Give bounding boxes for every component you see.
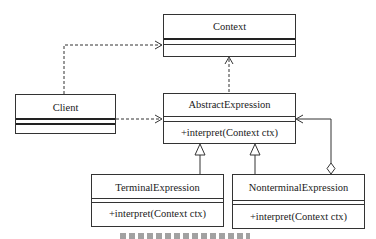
operation-interpret: +interpret(Context ctx) (92, 208, 223, 219)
client-context-dependency (64, 41, 162, 94)
class-name: Client (16, 102, 115, 113)
figure-caption-truncated (120, 233, 250, 239)
operation-divider (164, 121, 295, 122)
class-name: TerminalExpression (92, 182, 223, 193)
operation-interpret: +interpret(Context ctx) (164, 127, 295, 138)
aggregation-arrow (296, 115, 335, 174)
class-nonterminal-expression[interactable]: NonterminalExpression +interpret(Context… (232, 174, 365, 229)
operation-divider (233, 204, 364, 205)
client-abstractexpression-dependency (116, 115, 162, 123)
class-name: Context (164, 21, 295, 32)
class-name: NonterminalExpression (233, 182, 364, 193)
operation-divider (92, 202, 223, 203)
attribute-divider (92, 198, 223, 199)
class-abstract-expression[interactable]: AbstractExpression +interpret(Context ct… (163, 93, 296, 144)
class-context[interactable]: Context (163, 14, 296, 57)
attribute-divider (233, 200, 364, 201)
attribute-divider (164, 38, 295, 40)
nonterminal-generalization-arrow (250, 144, 260, 174)
class-terminal-expression[interactable]: TerminalExpression +interpret(Context ct… (91, 174, 224, 227)
abstractexpression-context-dependency (225, 57, 233, 92)
terminal-generalization-arrow (195, 144, 205, 174)
attribute-divider (16, 118, 115, 120)
class-client[interactable]: Client (15, 94, 116, 134)
operation-interpret: +interpret(Context ctx) (233, 211, 364, 222)
class-name: AbstractExpression (164, 99, 295, 110)
attribute-divider (164, 116, 295, 117)
operation-divider (164, 44, 295, 45)
operation-divider (16, 123, 115, 125)
